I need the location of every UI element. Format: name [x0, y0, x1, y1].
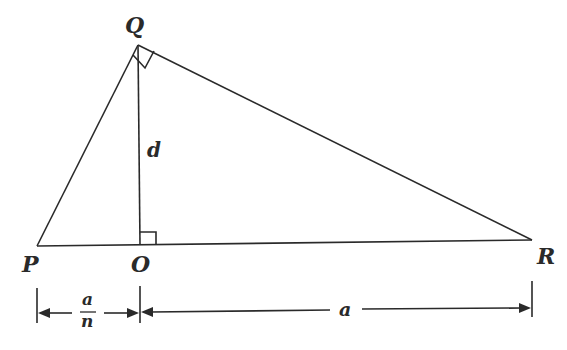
- label-R: R: [536, 243, 555, 269]
- label-a-over-n-numerator: a: [82, 289, 93, 309]
- label-d: d: [147, 138, 161, 162]
- side-PR: [37, 240, 532, 246]
- dim-line-OR-right: [362, 308, 521, 309]
- right-angle-mark-O: [140, 232, 156, 245]
- side-PQ: [37, 45, 138, 246]
- right-angle-mark-Q: [133, 51, 154, 68]
- dim-line-OR-left: [151, 310, 330, 312]
- triangle-diagram: Q P O R d a n a: [0, 0, 567, 350]
- side-QR: [138, 45, 532, 240]
- label-a-OR: a: [339, 298, 351, 320]
- arrow-right-O-icon: [127, 308, 139, 318]
- altitude-QO: [138, 45, 140, 245]
- label-Q: Q: [125, 12, 144, 38]
- arrow-left-P-icon: [38, 308, 50, 318]
- label-O: O: [131, 251, 150, 277]
- label-P: P: [21, 251, 40, 277]
- label-a-over-n-denominator: n: [81, 311, 93, 331]
- arrow-left-O-icon: [141, 307, 153, 317]
- arrow-right-R-icon: [519, 303, 531, 313]
